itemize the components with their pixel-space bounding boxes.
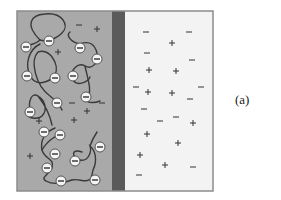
negative-charge-bead-icon (21, 42, 31, 52)
negative-charge-bead-icon (25, 107, 35, 117)
negative-charge-bead-icon (52, 98, 62, 108)
negative-charge-bead-icon (56, 176, 66, 186)
negative-charge-bead-icon (70, 156, 80, 166)
negative-charge-bead-icon (92, 54, 102, 64)
negative-charge-bead-icon (81, 92, 91, 102)
negative-charge-bead-icon (39, 127, 49, 137)
right-compartment (125, 11, 213, 191)
semipermeable-membrane (112, 11, 125, 191)
figure-label: (a) (235, 92, 249, 108)
negative-charge-bead-icon (95, 142, 105, 152)
negative-charge-bead-icon (44, 36, 54, 46)
negative-charge-bead-icon (55, 130, 65, 140)
negative-charge-bead-icon (68, 71, 78, 81)
negative-charge-bead-icon (42, 163, 52, 173)
left-compartment (17, 11, 112, 191)
negative-charge-bead-icon (50, 73, 60, 83)
negative-charge-bead-icon (90, 175, 100, 185)
negative-charge-bead-icon (75, 43, 85, 53)
negative-charge-bead-icon (50, 149, 60, 159)
negative-charge-bead-icon (22, 71, 32, 81)
